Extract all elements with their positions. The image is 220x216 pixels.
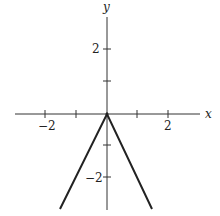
- y-tick-label-2: 2: [92, 42, 100, 56]
- vertex-point: [106, 113, 109, 116]
- x-tick-label-2: 2: [164, 119, 172, 133]
- x-tick-label-neg2: −2: [38, 119, 56, 133]
- y-axis-label: y: [102, 0, 110, 14]
- x-axis-label: x: [205, 107, 212, 121]
- y-tick-label-neg2: −2: [85, 171, 103, 185]
- chart-plot: −2 2 2 −2 x y: [0, 0, 220, 216]
- function-curve: [60, 114, 152, 209]
